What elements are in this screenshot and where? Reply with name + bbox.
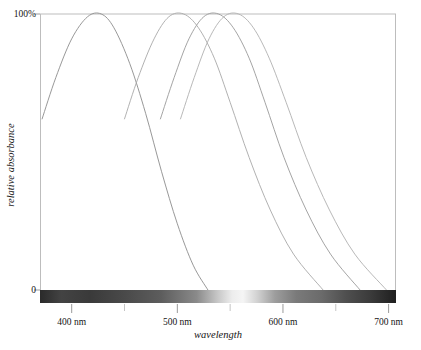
curve-4 [181,13,387,290]
y-axis-top-label: 100% [14,9,36,19]
x-axis-tick-label: 700 nm [374,317,403,327]
y-axis-ticks [34,14,40,290]
x-axis-tick-label: 500 nm [163,317,192,327]
chart-svg: 100% 0 400 nm500 nm600 nm700 nm waveleng… [0,0,421,350]
y-axis-title: relative absorbance [5,123,16,207]
visible-spectrum-bar [40,290,396,303]
curve-1 [42,13,208,290]
x-axis-tick-label: 400 nm [57,317,86,327]
y-axis-bottom-label: 0 [31,285,36,295]
absorbance-spectrum-figure: 100% 0 400 nm500 nm600 nm700 nm waveleng… [0,0,421,350]
x-axis-ticks [72,304,389,313]
curve-group [42,13,386,290]
curve-3 [160,13,360,290]
x-axis-tick-labels: 400 nm500 nm600 nm700 nm [57,317,403,327]
plot-frame [40,14,396,290]
curve-2 [125,13,324,290]
x-axis-tick-label: 600 nm [269,317,298,327]
x-axis-title: wavelength [194,329,242,340]
